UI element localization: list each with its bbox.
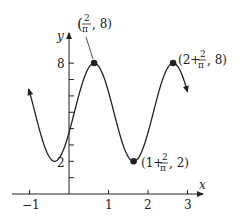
- point-label-1: ( 2 π , 8): [77, 13, 112, 34]
- curve: [29, 63, 188, 161]
- x-tick-label: 3: [184, 198, 192, 212]
- svg-text:2: 2: [200, 49, 206, 59]
- y-tick-label: 2: [57, 156, 65, 170]
- x-tick-label: −1: [22, 198, 40, 212]
- svg-text:π: π: [160, 163, 166, 173]
- svg-text:, 8): , 8): [207, 53, 227, 67]
- x-ticks: [30, 190, 188, 194]
- x-axis-label: x: [199, 178, 206, 192]
- y-ticks: [69, 63, 74, 177]
- x-tick-label: 2: [144, 198, 152, 212]
- point-max-2: [170, 60, 177, 67]
- point-max-1: [91, 60, 98, 67]
- y-axis-label: y: [56, 29, 64, 43]
- svg-text:, 2): , 2): [169, 156, 189, 170]
- svg-text:2: 2: [162, 152, 168, 162]
- x-tick-label: 1: [105, 198, 113, 212]
- svg-text:π: π: [198, 60, 204, 70]
- point-label-2: (1+ 2 π , 2): [141, 152, 189, 173]
- leader-line: [86, 37, 93, 59]
- svg-text:π: π: [82, 24, 88, 34]
- point-min: [130, 158, 137, 165]
- svg-text:2: 2: [84, 13, 90, 23]
- point-label-3: (2+ 2 π , 8): [178, 49, 227, 70]
- svg-text:, 8): , 8): [92, 17, 112, 31]
- y-tick-label: 8: [57, 57, 65, 71]
- chart: −1 1 2 3 8 2 x y ( 2 π , 8) (1+ 2 π , 2)…: [0, 0, 243, 224]
